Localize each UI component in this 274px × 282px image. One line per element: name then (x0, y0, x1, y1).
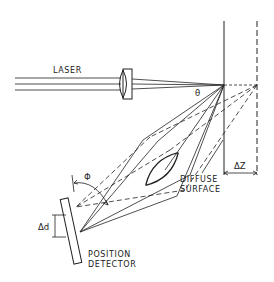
optical-triangulation-diagram: LASER θ Φ Δd ΔZ DIFFUSE SURFACE POSITION… (0, 0, 274, 282)
diffuse-label-line2: SURFACE (180, 185, 221, 194)
theta-label: θ (195, 88, 200, 98)
laser-label: LASER (53, 66, 82, 75)
detector-label-line2: DETECTOR (88, 260, 136, 269)
scattered-rays-solid (80, 85, 224, 232)
detector-label-line1: POSITION (88, 250, 131, 259)
diffuse-label-line1: DIFFUSE (180, 175, 218, 184)
diffuse-surface-leader (202, 140, 223, 173)
scattered-rays-dashed (76, 85, 257, 207)
phi-label: Φ (84, 172, 91, 182)
delta-z-label: ΔZ (234, 161, 246, 171)
position-detector (60, 198, 82, 264)
delta-d-label: Δd (38, 222, 49, 232)
delta-z-dimension (224, 171, 257, 175)
laser-lens (120, 69, 133, 99)
